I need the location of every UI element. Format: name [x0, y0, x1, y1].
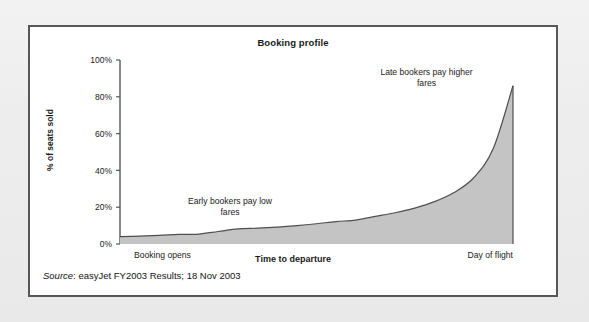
source-note: Source: easyJet FY2003 Results; 18 Nov 2…: [43, 270, 241, 281]
annotation-line: fares: [417, 78, 436, 88]
y-tick-label: 80%: [95, 92, 112, 102]
annotation-line: Early bookers pay low: [188, 196, 273, 206]
annotation-late-bookers: Late bookers pay higherfares: [380, 67, 472, 88]
source-label: Source: [43, 270, 73, 281]
source-text: easyJet FY2003 Results; 18 Nov 2003: [78, 270, 240, 281]
y-tick-label: 20%: [95, 202, 112, 212]
y-tick-label: 60%: [95, 129, 112, 139]
x-axis-title: Time to departure: [30, 254, 556, 264]
y-axis-ticks: 0%20%40%60%80%100%: [90, 55, 120, 249]
y-tick-label: 40%: [95, 166, 112, 176]
annotation-line: Late bookers pay higher: [380, 67, 472, 77]
booking-profile-plot: 0%20%40%60%80%100% Early bookers pay low…: [30, 27, 556, 267]
annotation-early-bookers: Early bookers pay lowfares: [188, 196, 273, 217]
y-tick-label: 100%: [90, 55, 112, 65]
chart-annotations: Early bookers pay lowfaresLate bookers p…: [188, 67, 473, 217]
y-tick-label: 0%: [100, 239, 113, 249]
figure-frame: Booking profile % of seats sold 0%20%40%…: [28, 25, 558, 297]
booking-curve-area: [120, 86, 513, 244]
chart-area: Booking profile % of seats sold 0%20%40%…: [30, 27, 556, 267]
annotation-line: fares: [220, 207, 239, 217]
